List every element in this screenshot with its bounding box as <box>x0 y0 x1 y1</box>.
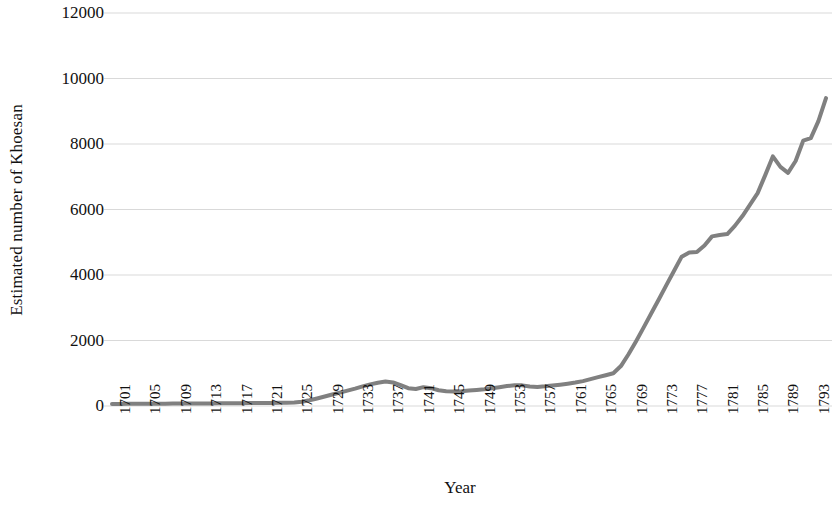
x-axis-tick-label: 1713 <box>209 384 224 414</box>
x-axis-tick-label: 1717 <box>240 384 255 414</box>
x-axis-tick-label: 1733 <box>361 384 376 414</box>
x-axis-tick-label: 1729 <box>331 384 346 414</box>
x-axis-tick-label: 1793 <box>817 384 832 414</box>
x-axis-tick-label: 1769 <box>635 384 650 414</box>
grid-lines <box>104 13 832 406</box>
x-axis-tick-label: 1777 <box>695 384 710 414</box>
x-axis-tick-label: 1757 <box>543 384 558 414</box>
x-axis-tick-label: 1737 <box>391 384 406 414</box>
x-axis-tick-label: 1781 <box>726 384 741 414</box>
x-axis-tick-label: 1761 <box>574 384 589 414</box>
x-axis-title-text: Year <box>444 478 475 497</box>
x-axis-tick-label: 1765 <box>604 384 619 414</box>
x-axis-tick-label: 1721 <box>270 384 285 414</box>
x-axis-tick-label: 1745 <box>452 384 467 414</box>
x-axis-tick-label: 1789 <box>786 384 801 414</box>
x-axis-title: Year <box>0 478 840 498</box>
x-axis-tick-label: 1749 <box>483 384 498 414</box>
x-axis-tick-label: 1741 <box>422 384 437 414</box>
x-axis-tick-label: 1773 <box>665 384 680 414</box>
x-axis-tick-label: 1709 <box>179 384 194 414</box>
chart-figure: Estimated number of Khoesan 120001000080… <box>0 0 840 508</box>
x-axis-tick-label: 1705 <box>148 384 163 414</box>
x-axis-tick-label: 1785 <box>756 384 771 414</box>
x-axis-tick-label: 1701 <box>118 384 133 414</box>
x-axis-tick-label: 1725 <box>300 384 315 414</box>
plot-area <box>0 0 840 508</box>
x-axis-tick-label: 1753 <box>513 384 528 414</box>
